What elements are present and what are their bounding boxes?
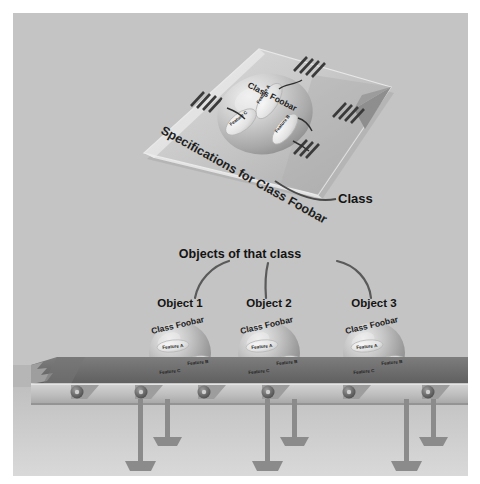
specification-sheet [144,49,394,201]
object-3-title: Object 3 [351,297,396,309]
callout-arrow-right [337,261,371,298]
class-callout-label: Class [338,191,373,206]
illustration-canvas: Specifications for Class Foobar Class Fo… [13,13,468,476]
illustration-stage: Specifications for Class Foobar Class Fo… [0,0,480,484]
object-1-title: Object 1 [157,297,203,309]
scene-svg: Specifications for Class Foobar Class Fo… [13,13,468,476]
callout-arrow-middle [265,263,268,298]
objects-callout-label: Objects of that class [179,247,301,261]
belt-legs [125,399,448,471]
object-2-title: Object 2 [246,297,291,309]
objects-callout-arrows [195,261,371,298]
belt-leg-pair [391,399,448,471]
belt-leg-pair [125,399,182,471]
callout-arrow-left [195,261,229,298]
belt-leg-pair [252,399,309,471]
